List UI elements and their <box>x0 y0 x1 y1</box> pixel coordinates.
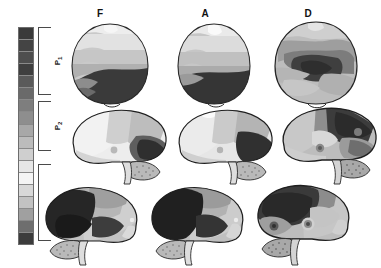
colorbar-swatch-0 <box>19 28 33 40</box>
colorbar-swatch-13 <box>19 185 33 197</box>
brain-panel-grid: F A D <box>68 2 368 266</box>
colorbar-swatch-12 <box>19 173 33 185</box>
colorbar-swatch-15 <box>19 209 33 221</box>
colorbar-swatch-2 <box>19 52 33 64</box>
colorbar-swatch-17 <box>19 233 33 244</box>
bracket-p1: P1 <box>38 27 51 95</box>
column-header-a: A <box>195 8 215 19</box>
brain-panel-d-lateral-left <box>250 98 380 186</box>
colorbar-swatch-9 <box>19 137 33 149</box>
colorbar-swatch-6 <box>19 100 33 112</box>
colorbar-swatch-16 <box>19 221 33 233</box>
colorbar-swatch-3 <box>19 64 33 76</box>
column-header-f: F <box>90 8 110 19</box>
colorbar-swatch-10 <box>19 149 33 161</box>
colorbar-swatch-1 <box>19 40 33 52</box>
colorbar <box>18 27 34 245</box>
colorbar-swatch-14 <box>19 197 33 209</box>
brain-panel-a-axial <box>164 20 264 108</box>
brain-panel-d-axial <box>264 18 368 110</box>
brain-panel-d-lateral-right <box>252 176 381 268</box>
colorbar-swatch-7 <box>19 112 33 124</box>
colorbar-swatch-5 <box>19 88 33 100</box>
colorbar-swatch-11 <box>19 161 33 173</box>
colorbar-swatch-8 <box>19 125 33 137</box>
colorbar-swatch-4 <box>19 76 33 88</box>
brain-panel-f-axial <box>60 20 160 108</box>
